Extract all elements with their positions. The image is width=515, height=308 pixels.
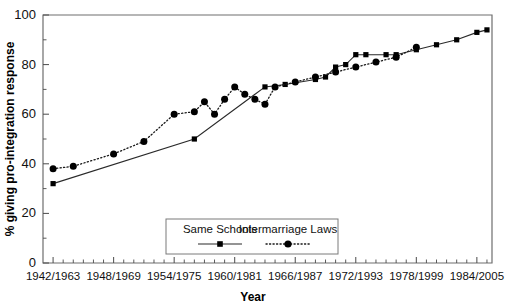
y-tick-label: 60 — [22, 106, 36, 121]
data-point-circle — [231, 83, 238, 90]
x-tick-label: 1984/2005 — [450, 270, 504, 282]
y-tick-label: 0 — [29, 255, 36, 270]
legend-marker-circle — [284, 240, 291, 247]
data-point-circle — [393, 54, 400, 61]
data-point-square — [192, 136, 197, 141]
y-tick-label: 40 — [22, 156, 36, 171]
data-point-circle — [312, 74, 319, 81]
x-tick-label: 1954/1975 — [147, 270, 201, 282]
data-point-circle — [211, 111, 218, 118]
data-point-square — [50, 181, 55, 186]
data-point-circle — [140, 138, 147, 145]
y-tick-label: 80 — [22, 57, 36, 72]
data-point-square — [363, 52, 368, 57]
data-point-circle — [191, 108, 198, 115]
data-point-square — [434, 42, 439, 47]
data-point-circle — [292, 78, 299, 85]
chart-legend: Same SchoolsIntermarriage Laws — [166, 219, 338, 254]
data-point-square — [474, 30, 479, 35]
y-axis-title: % giving pro-integration response — [3, 41, 17, 236]
data-point-circle — [272, 83, 279, 90]
data-point-circle — [110, 150, 117, 157]
data-point-circle — [332, 69, 339, 76]
y-tick-label: 20 — [22, 205, 36, 220]
data-point-circle — [413, 44, 420, 51]
data-point-circle — [352, 64, 359, 71]
data-point-circle — [221, 96, 228, 103]
line-chart: 020406080100 1942/19631948/19691954/1975… — [0, 0, 515, 308]
data-point-square — [343, 62, 348, 67]
data-point-circle — [261, 101, 268, 108]
x-tick-label: 1960/1981 — [208, 270, 262, 282]
data-point-circle — [201, 98, 208, 105]
x-tick-label: 1978/1999 — [389, 270, 443, 282]
legend-marker-square — [217, 241, 223, 247]
data-point-circle — [372, 59, 379, 66]
data-point-circle — [241, 91, 248, 98]
data-point-square — [383, 52, 388, 57]
data-point-circle — [171, 111, 178, 118]
x-axis-title: Year — [240, 290, 266, 304]
data-point-circle — [50, 165, 57, 172]
data-point-circle — [70, 163, 77, 170]
data-point-square — [353, 52, 358, 57]
data-point-square — [454, 37, 459, 42]
data-point-square — [262, 84, 267, 89]
data-point-square — [484, 27, 489, 32]
legend-label: Intermarriage Laws — [239, 223, 338, 235]
data-point-circle — [251, 96, 258, 103]
y-tick-label: 100 — [14, 7, 36, 22]
x-tick-label: 1972/1993 — [329, 270, 383, 282]
x-tick-label: 1948/1969 — [86, 270, 140, 282]
x-tick-label: 1942/1963 — [26, 270, 80, 282]
x-tick-label: 1966/1987 — [268, 270, 322, 282]
chart-container: 020406080100 1942/19631948/19691954/1975… — [0, 0, 515, 308]
